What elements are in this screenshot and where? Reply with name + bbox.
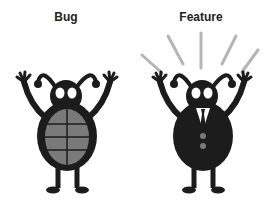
feature-icon — [153, 72, 251, 194]
bug-vs-feature-illustration — [0, 0, 273, 204]
feature-rays — [142, 33, 258, 73]
bug-shell — [45, 109, 89, 165]
